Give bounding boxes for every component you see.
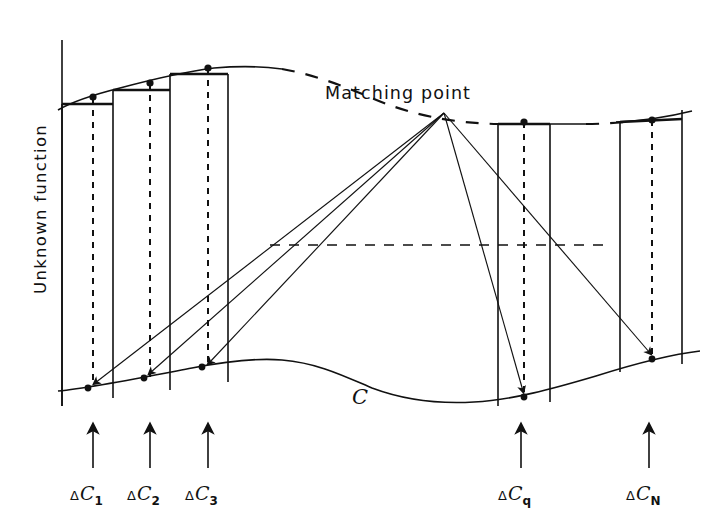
fan-line-2 — [150, 113, 444, 373]
node-dot-lower-n — [649, 356, 656, 363]
c-curve — [58, 351, 700, 402]
increment-delta-1: Δ — [70, 488, 79, 503]
increment-base-q: C — [508, 482, 523, 504]
svg-text:ΔCq: ΔCq — [498, 482, 531, 508]
increment-delta-2: Δ — [127, 488, 136, 503]
svg-text:ΔC3: ΔC3 — [185, 482, 218, 508]
increment-sub-1: 1 — [94, 494, 102, 508]
y-axis-label: Unknown function — [31, 124, 50, 294]
right-staircase-group — [498, 110, 682, 406]
fan-line-n — [444, 113, 650, 353]
node-dot-upper-3 — [204, 64, 211, 71]
increment-delta-3: Δ — [185, 488, 194, 503]
c-curve-label: C — [352, 385, 368, 409]
svg-text:ΔCN: ΔCN — [626, 482, 661, 508]
node-dot-lower-q — [521, 394, 528, 401]
node-dot-upper-2 — [146, 79, 153, 86]
increment-arrows-group: ΔC1 ΔC2 ΔC3 — [70, 428, 661, 508]
increment-label-3: ΔC3 — [185, 482, 218, 508]
matching-point-label: Matching point — [325, 83, 471, 103]
increment-marker-q: ΔCq — [498, 428, 531, 508]
increment-base-2: C — [137, 482, 152, 504]
increment-label-q: ΔCq — [498, 482, 531, 508]
node-dot-lower-2 — [141, 375, 148, 382]
increment-marker-3: ΔC3 — [185, 428, 218, 508]
node-dot-upper-q — [520, 118, 527, 125]
increment-sub-2: 2 — [151, 494, 159, 508]
node-dot-lower-1 — [85, 385, 92, 392]
svg-text:ΔC1: ΔC1 — [70, 482, 103, 508]
left-staircase-group — [62, 74, 228, 406]
increment-label-n: ΔCN — [626, 482, 661, 508]
increment-delta-q: Δ — [498, 488, 507, 503]
increment-sub-3: 3 — [209, 494, 217, 508]
increment-label-1: ΔC1 — [70, 482, 103, 508]
node-dot-upper-1 — [89, 93, 96, 100]
matching-point-fan-group: Matching point — [95, 83, 650, 391]
svg-text:ΔC2: ΔC2 — [127, 482, 160, 508]
dashed-projection-group — [93, 68, 652, 396]
node-dot-upper-n — [648, 116, 655, 123]
y-axis-group: Unknown function — [31, 40, 62, 406]
increment-sub-q: q — [522, 494, 531, 508]
node-dot-lower-3 — [199, 364, 206, 371]
fan-line-q — [444, 113, 523, 391]
increment-delta-n: Δ — [626, 488, 635, 503]
increment-marker-2: ΔC2 — [127, 428, 160, 508]
fan-line-3 — [209, 113, 444, 363]
increment-marker-n: ΔCN — [626, 428, 661, 508]
increment-base-n: C — [636, 482, 651, 504]
increment-base-1: C — [80, 482, 95, 504]
increment-base-3: C — [195, 482, 210, 504]
fan-line-1 — [95, 113, 444, 383]
increment-marker-1: ΔC1 — [70, 428, 103, 508]
increment-label-2: ΔC2 — [127, 482, 160, 508]
increment-sub-n: N — [650, 494, 660, 508]
matching-point-diagram: Unknown function — [0, 0, 714, 531]
c-curve-group: C — [58, 351, 700, 409]
figure-root: Unknown function — [0, 0, 714, 531]
